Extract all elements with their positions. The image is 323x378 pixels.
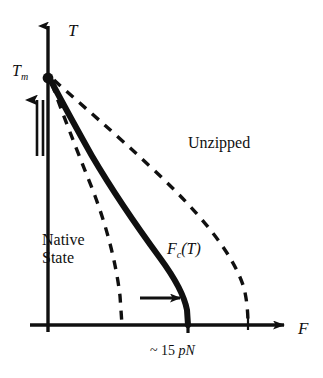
temperature-axis-label: T bbox=[68, 22, 77, 40]
force-axis-label: F bbox=[298, 320, 308, 338]
force-value-label: ~ 15 pN bbox=[150, 343, 195, 358]
melting-temperature-subscript: m bbox=[21, 71, 28, 82]
melting-temperature-symbol: T bbox=[12, 62, 21, 79]
lower-bound-dashed-curve bbox=[52, 84, 122, 325]
force-value-unit: pN bbox=[179, 343, 195, 358]
region-label-native-line2: State bbox=[42, 249, 85, 267]
phase-diagram-figure: T F Tm Unzipped Native State Fc(T) ~ 15 … bbox=[0, 0, 323, 378]
critical-force-curve bbox=[51, 81, 188, 325]
critical-force-argument: (T) bbox=[181, 240, 201, 257]
region-label-native-line1: Native bbox=[42, 231, 85, 249]
force-value-number: ~ 15 bbox=[150, 343, 175, 358]
temperature-increase-arrow bbox=[37, 100, 43, 156]
critical-force-curve-label: Fc(T) bbox=[167, 240, 201, 261]
melting-point-dot bbox=[43, 73, 54, 84]
region-label-unzipped: Unzipped bbox=[188, 134, 250, 151]
melting-temperature-label: Tm bbox=[12, 62, 28, 83]
diagram-canvas bbox=[0, 0, 323, 378]
critical-force-symbol: F bbox=[167, 240, 177, 257]
region-label-native-state: Native State bbox=[42, 231, 85, 267]
upper-bound-dashed-curve bbox=[54, 80, 248, 325]
